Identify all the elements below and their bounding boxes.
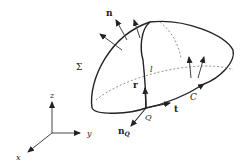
hidden-boundary	[96, 66, 233, 100]
surface-outline	[92, 21, 234, 108]
label-tangent: t	[174, 104, 179, 114]
label-axis-x: x	[16, 153, 21, 162]
t-vector	[146, 103, 170, 108]
label-surface: Σ	[76, 62, 82, 72]
label-point-normal: nQ	[118, 126, 131, 138]
label-point-q: Q	[145, 113, 152, 122]
diagram-canvas: n Σ l r Q t C nQ z y x	[0, 0, 249, 168]
normal-arrow	[189, 57, 191, 78]
boundary-curve-c	[92, 84, 204, 113]
normal-arrow	[116, 20, 127, 40]
label-curve-l: l	[150, 65, 153, 74]
label-r: r	[133, 80, 138, 90]
hidden-meridian	[160, 22, 181, 58]
label-normal: n	[106, 8, 113, 18]
normal-arrow	[198, 57, 204, 78]
axis-x	[28, 133, 52, 152]
label-axis-z: z	[49, 91, 55, 100]
label-axis-y: y	[86, 129, 92, 138]
label-boundary-c: C	[190, 92, 197, 102]
